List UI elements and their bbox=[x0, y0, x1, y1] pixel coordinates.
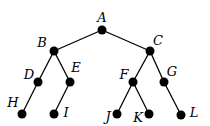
node-b bbox=[50, 47, 59, 56]
edge-b-e bbox=[54, 51, 70, 82]
node-label-i: I bbox=[62, 105, 69, 120]
node-label-l: L bbox=[189, 105, 199, 120]
edge-g-l bbox=[164, 82, 181, 115]
node-k bbox=[145, 110, 154, 119]
node-label-k: K bbox=[132, 110, 144, 125]
node-label-g: G bbox=[167, 64, 177, 79]
edge-b-d bbox=[38, 51, 54, 82]
node-label-c: C bbox=[153, 33, 163, 48]
node-e bbox=[66, 78, 75, 87]
node-h bbox=[18, 110, 27, 119]
node-label-a: A bbox=[96, 10, 106, 25]
edge-a-b bbox=[54, 30, 102, 51]
edge-f-j bbox=[117, 82, 133, 114]
tree-diagram: ABCDEFGHIJKL bbox=[0, 0, 210, 126]
node-a bbox=[98, 26, 107, 35]
node-i bbox=[50, 110, 59, 119]
edge-d-h bbox=[22, 82, 38, 114]
node-l bbox=[177, 111, 186, 120]
node-label-d: D bbox=[23, 67, 35, 82]
edge-a-c bbox=[102, 30, 150, 51]
node-label-e: E bbox=[70, 60, 81, 75]
node-label-j: J bbox=[102, 109, 111, 124]
node-j bbox=[113, 110, 122, 119]
node-label-b: B bbox=[36, 35, 47, 50]
edge-c-g bbox=[150, 51, 164, 82]
node-f bbox=[129, 78, 138, 87]
node-d bbox=[34, 78, 43, 87]
node-label-f: F bbox=[118, 67, 129, 82]
node-label-h: H bbox=[6, 95, 19, 110]
edge-c-f bbox=[133, 51, 150, 82]
